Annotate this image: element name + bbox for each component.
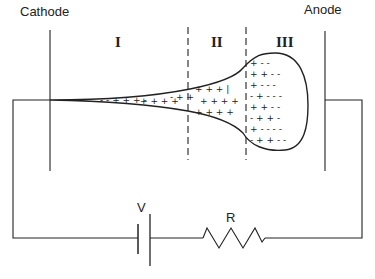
svg-text:- + +: - + + bbox=[170, 92, 194, 102]
svg-text:+ + - -: + + - - bbox=[250, 69, 280, 79]
discharge-diagram: Cathode Anode I II III V R - - + + + - bbox=[0, 0, 375, 279]
svg-text:- + + - -: - + + - - bbox=[250, 135, 286, 145]
svg-text:+ + + |: + + + | bbox=[195, 84, 229, 94]
resistor-zigzag bbox=[203, 228, 265, 248]
svg-text:+ + + +: + + + + bbox=[200, 96, 239, 106]
svg-text:+ + + +: + + + + bbox=[195, 107, 234, 117]
svg-text:+ - -: + - - bbox=[250, 58, 270, 68]
wire-left bbox=[13, 100, 138, 238]
svg-text:- + - - -: - + - - - bbox=[250, 91, 282, 101]
circuit-drawing: - - + + + - + + + + - + + + + + | + + + … bbox=[0, 0, 375, 279]
svg-text:- + + -: - + + - bbox=[250, 113, 280, 123]
svg-text:+ - - -: + - - - bbox=[250, 80, 276, 90]
svg-text:+ - - - -: + - - - - bbox=[250, 124, 282, 134]
svg-text:+ + - -: + + - - bbox=[250, 102, 280, 112]
charge-markers: - - + + + - + + + + - + + + + + | + + + … bbox=[100, 58, 286, 145]
